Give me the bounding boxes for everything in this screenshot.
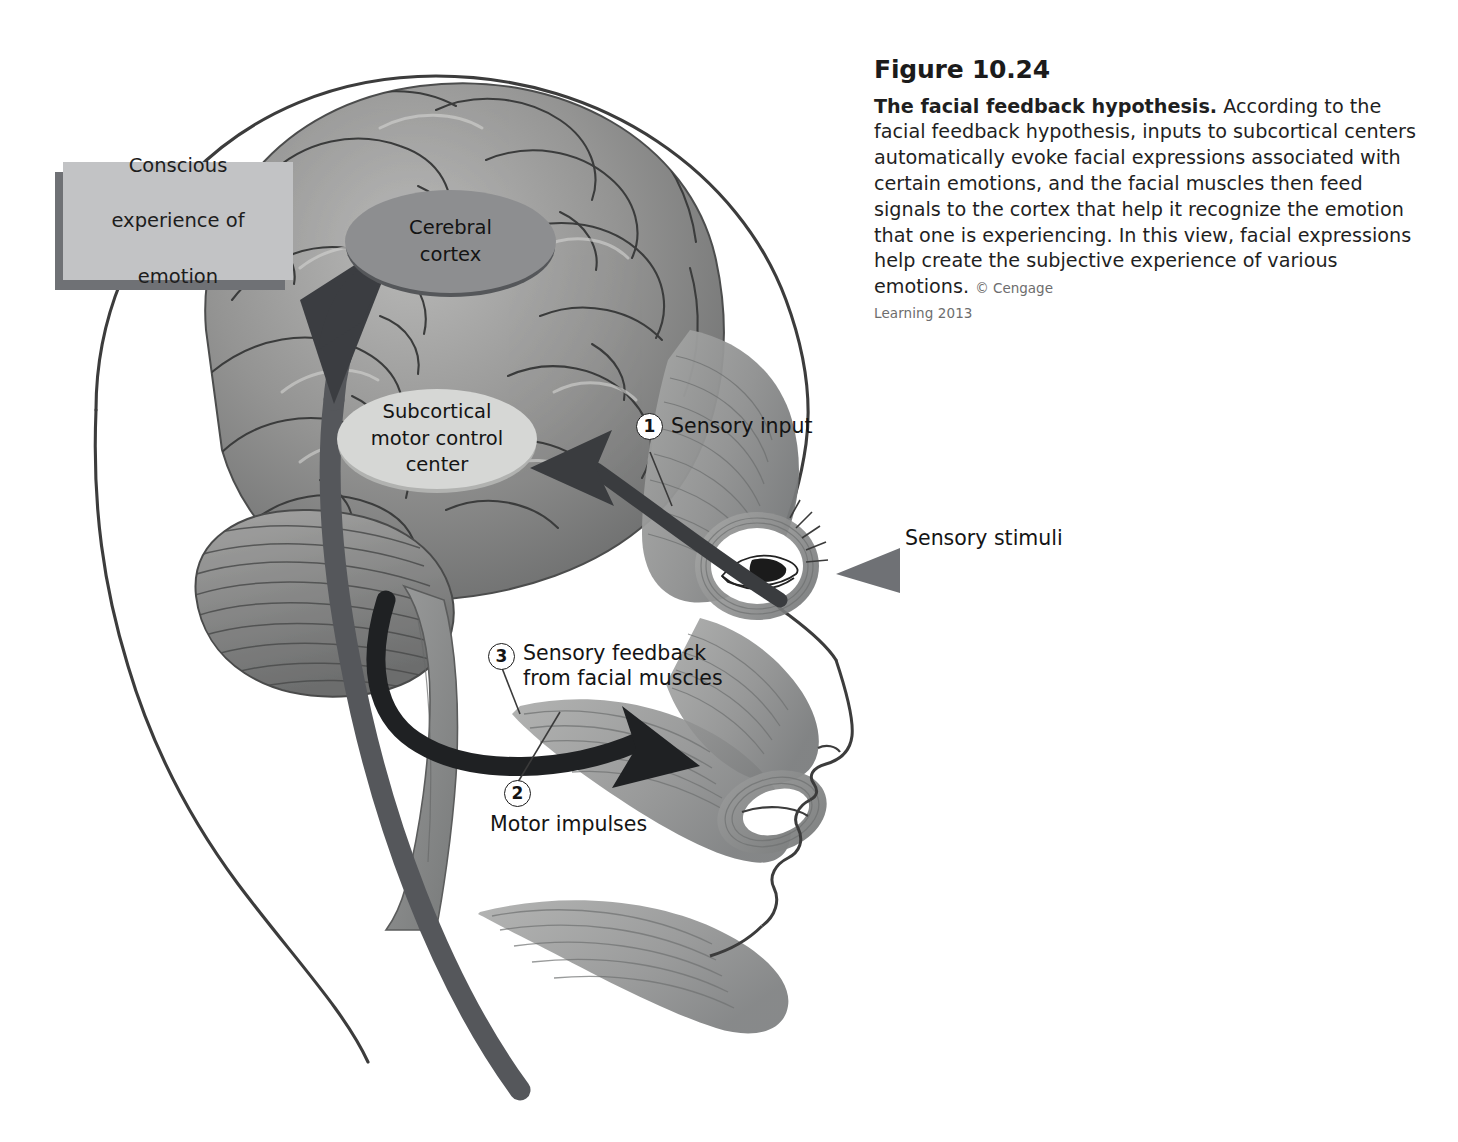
cortex-line-2: cortex [420,243,482,266]
callout-motor-impulses: 2 Motor impulses [504,780,647,837]
figure-caption-body: The facial feedback hypothesis. Accordin… [874,94,1434,323]
figure-credit: © Cengage [975,280,1053,296]
figure-caption-title: The facial feedback hypothesis. [874,95,1217,118]
figure-number: Figure 10.24 [874,56,1434,84]
conscious-experience-box: Consciousexperience ofemotion [63,162,293,280]
figure-caption-text: According to the facial feedback hypothe… [874,95,1416,299]
cortex-line-1: Cerebral [409,216,492,239]
callout-number-1-badge: 1 [636,413,663,440]
feedback-line-1: Sensory feedback [523,641,706,665]
callout-sensory-input: 1 Sensory input [636,413,813,440]
subcortical-line-2: motor control [371,427,503,450]
callout-number-2-badge: 2 [504,780,531,807]
box-line-2: experience of [111,207,244,235]
callout-motor-impulses-label: Motor impulses [490,812,647,837]
cerebral-cortex-ellipse: Cerebralcortex [345,190,556,293]
subcortical-motor-control-ellipse: Subcorticalmotor controlcenter [337,389,537,489]
subcortical-label: Subcorticalmotor controlcenter [371,399,503,479]
anatomy-illustration: Consciousexperience ofemotion Cerebralco… [0,0,900,1142]
box-face: Consciousexperience ofemotion [63,162,293,280]
box-line-1: Conscious [111,152,244,180]
conscious-experience-label: Consciousexperience ofemotion [111,152,244,290]
callout-number-3-badge: 3 [488,643,515,670]
sensory-stimuli-label: Sensory stimuli [905,526,1063,550]
figure-credit-line2: Learning 2013 [874,304,1434,322]
feedback-line-2: from facial muscles [523,666,723,690]
callout-sensory-feedback: 3 Sensory feedbackfrom facial muscles [488,641,723,691]
cerebral-cortex-label: Cerebralcortex [409,215,492,269]
subcortical-line-1: Subcortical [383,400,492,423]
figure-root: Consciousexperience ofemotion Cerebralco… [0,0,1458,1142]
callout-sensory-input-label: Sensory input [671,414,813,439]
figure-caption: Figure 10.24 The facial feedback hypothe… [874,56,1434,322]
sensory-stimuli-arrow [836,540,900,600]
callout-sensory-feedback-label: Sensory feedbackfrom facial muscles [523,641,723,691]
box-line-3: emotion [111,263,244,291]
subcortical-line-3: center [406,453,469,476]
